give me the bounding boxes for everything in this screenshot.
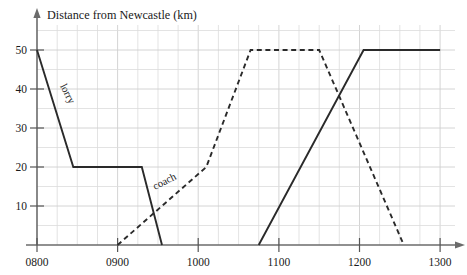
series-annotation-lorry: lorry [58, 82, 77, 106]
grid-minor-vertical [57, 25, 420, 245]
x-tick-label-0800: 0800 [26, 256, 49, 268]
y-tick-label-50: 50 [16, 44, 28, 56]
y-axis-arrowhead [33, 8, 40, 18]
y-tick-label-10: 10 [16, 200, 28, 212]
grid-major-vertical [118, 25, 441, 245]
x-tick-label-1200: 1200 [348, 256, 371, 268]
series-annotation-coach: coach [151, 170, 179, 191]
chart-axis-title: Distance from Newcastle (km) [47, 8, 197, 22]
x-axis [26, 241, 465, 248]
x-axis-tick-labels: 0800 0900 1000 1100 1200 1300 [26, 256, 452, 268]
y-tick-label-40: 40 [16, 83, 28, 95]
x-tick-label-1300: 1300 [429, 256, 452, 268]
y-tick-label-30: 30 [16, 122, 28, 134]
x-tick-label-1100: 1100 [268, 256, 291, 268]
y-axis [33, 8, 40, 245]
y-axis-tick-labels: 50 40 30 20 10 [16, 44, 28, 212]
y-tick-label-20: 20 [16, 161, 28, 173]
x-axis-arrowhead [455, 241, 465, 248]
x-tick-label-0900: 0900 [106, 256, 129, 268]
travel-graph-figure: 50 40 30 20 10 0800 0900 1000 1100 1200 … [0, 0, 467, 275]
grid-major-horizontal [37, 50, 455, 206]
distance-time-chart: 50 40 30 20 10 0800 0900 1000 1100 1200 … [0, 0, 467, 275]
x-tick-label-1000: 1000 [187, 256, 210, 268]
